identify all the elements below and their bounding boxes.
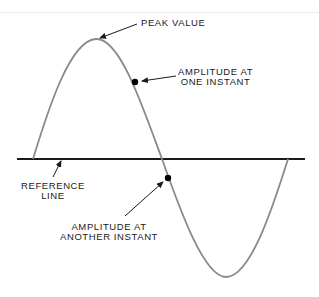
amp-another-line2: ANOTHER INSTANT xyxy=(57,232,161,242)
sine-wave-negative-half xyxy=(162,159,288,277)
sine-wave-diagram xyxy=(0,0,319,297)
amplitude-one-instant-dot xyxy=(132,79,138,85)
amp-another-arrow xyxy=(125,182,163,216)
peak-value-label: PEAK VALUE xyxy=(141,18,205,28)
peak-arrow xyxy=(100,24,137,38)
amplitude-another-instant-label: AMPLITUDE AT ANOTHER INSTANT xyxy=(57,222,161,242)
reference-line-label: REFERENCE LINE xyxy=(19,181,87,201)
amp-one-arrow xyxy=(142,76,176,81)
amplitude-one-instant-label: AMPLITUDE AT ONE INSTANT xyxy=(178,67,253,87)
reference-arrow xyxy=(53,161,61,177)
peak-value-text: PEAK VALUE xyxy=(141,17,205,28)
reference-line2: LINE xyxy=(19,191,87,201)
amp-one-line2: ONE INSTANT xyxy=(178,77,253,87)
amplitude-another-instant-dot xyxy=(165,175,171,181)
sine-wave-positive-half xyxy=(33,39,162,159)
